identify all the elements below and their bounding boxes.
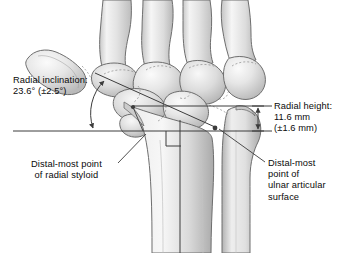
label-radial-styloid-line1: Distal-most point (31, 159, 102, 169)
point-radial-styloid (131, 105, 135, 109)
label-radial-height-line3: (±1.6 mm) (274, 123, 317, 133)
label-ulnar-surface-line2: point of (268, 169, 299, 179)
label-radial-inclination-line1: Radial inclination: (13, 75, 88, 85)
label-radial-inclination: Radial inclination:23.6° (±2.5°) (13, 75, 88, 97)
label-radial-styloid: Distal-most pointof radial styloid (31, 159, 102, 181)
bone-ulna (222, 107, 261, 253)
label-ulnar-surface-line3: ulnar articular (268, 180, 326, 190)
label-radial-height: Radial height:11.6 mm(±1.6 mm) (274, 101, 332, 135)
label-radial-inclination-line2: 23.6° (±2.5°) (13, 86, 67, 96)
bone-triquetrum (223, 56, 265, 99)
point-ulnar-articular (213, 126, 218, 131)
bone-third-metacarpal (142, 0, 173, 70)
bone-fourth-metacarpal (183, 0, 213, 68)
bone-group (26, 0, 266, 253)
label-ulnar-surface-line4: surface (268, 192, 299, 202)
label-ulnar-surface-line1: Distal-most (268, 158, 316, 168)
label-radial-height-line2: 11.6 mm (274, 112, 310, 122)
figure-container: Radial inclination:23.6° (±2.5°) Radial … (0, 0, 347, 253)
label-ulnar-surface: Distal-mostpoint ofulnar articularsurfac… (268, 158, 326, 203)
label-radial-styloid-line2: of radial styloid (35, 170, 99, 180)
leader-radial-styloid (118, 134, 146, 163)
label-radial-height-line1: Radial height: (274, 101, 332, 111)
